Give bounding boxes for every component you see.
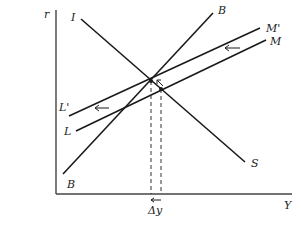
r-axis-label: r <box>44 8 50 21</box>
bp-curve-label-bottom: B <box>66 178 75 191</box>
y-axis-label: Y <box>284 199 293 212</box>
arrow-left-icon-m <box>225 45 240 51</box>
is-curve-label-s: S <box>251 157 259 170</box>
lm-prime-label-left: L' <box>58 101 69 114</box>
lm-curve <box>76 40 266 131</box>
lm-prime-curve <box>69 28 260 116</box>
bp-curve-label-top: B <box>217 4 226 17</box>
is-curve <box>81 19 245 162</box>
arrow-left-icon-l <box>95 105 109 111</box>
equilibrium-point-old <box>159 87 163 91</box>
arrow-delta-y-icon <box>151 198 161 202</box>
islm-diagram: r Y I S B B L' M' L M Δy <box>0 0 301 231</box>
bp-curve <box>63 13 213 174</box>
lm-label-right: M <box>269 35 282 48</box>
equilibrium-point-new <box>149 79 153 83</box>
lm-prime-label-right: M' <box>265 22 280 35</box>
delta-y-label: Δy <box>147 204 163 217</box>
is-curve-label-i: I <box>70 11 76 24</box>
lm-label-left: L <box>63 125 71 138</box>
